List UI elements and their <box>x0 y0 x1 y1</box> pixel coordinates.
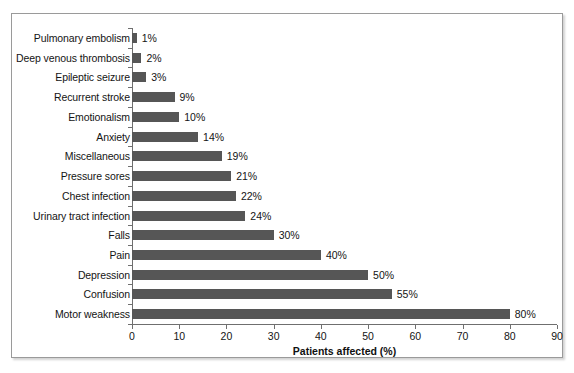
x-axis-tick-label: 30 <box>268 330 280 342</box>
y-axis-tick <box>128 127 132 128</box>
bar-value-label: 3% <box>151 71 166 83</box>
category-label: Urinary tract infection <box>33 210 130 222</box>
bar-row: Pain40% <box>12 245 564 265</box>
bar <box>132 230 274 240</box>
bar-value-label: 1% <box>142 32 157 44</box>
bar-row: Deep venous thrombosis2% <box>12 48 564 68</box>
x-axis-tick-label: 80 <box>504 330 516 342</box>
x-axis-tick <box>368 325 369 329</box>
bar-group: 50% <box>132 270 394 280</box>
bar-group: 10% <box>132 112 205 122</box>
x-axis-tick-label: 60 <box>409 330 421 342</box>
category-label: Motor weakness <box>55 308 130 320</box>
bar <box>132 72 146 82</box>
y-axis-tick <box>128 107 132 108</box>
bar-group: 2% <box>132 53 162 63</box>
x-axis-tick <box>415 325 416 329</box>
bar-row: Chest infection22% <box>12 186 564 206</box>
y-axis-tick <box>128 67 132 68</box>
bar <box>132 92 175 102</box>
bar-group: 19% <box>132 151 248 161</box>
category-label: Depression <box>78 269 130 281</box>
y-axis-tick <box>128 225 132 226</box>
bar <box>132 171 231 181</box>
bar <box>132 211 245 221</box>
bar-group: 3% <box>132 72 166 82</box>
category-label: Anxiety <box>96 131 130 143</box>
y-axis-tick <box>128 28 132 29</box>
bar-value-label: 50% <box>373 269 394 281</box>
bar-value-label: 80% <box>515 308 536 320</box>
bar-group: 14% <box>132 132 224 142</box>
bar-group: 22% <box>132 191 262 201</box>
bar-row: Motor weakness80% <box>12 304 564 324</box>
bar-value-label: 2% <box>146 52 161 64</box>
bar-value-label: 9% <box>180 91 195 103</box>
category-label: Pain <box>109 249 130 261</box>
y-axis-tick <box>128 284 132 285</box>
y-axis-tick <box>128 265 132 266</box>
bar-row: Falls30% <box>12 225 564 245</box>
bar-row: Miscellaneous19% <box>12 146 564 166</box>
x-axis-tick <box>510 325 511 329</box>
bar-value-label: 24% <box>250 210 271 222</box>
x-axis-tick-label: 70 <box>457 330 469 342</box>
y-axis-tick <box>128 48 132 49</box>
x-axis-tick-label: 90 <box>551 330 563 342</box>
bar-group: 21% <box>132 171 257 181</box>
bar-row: Pulmonary embolism1% <box>12 28 564 48</box>
bar-group: 9% <box>132 92 195 102</box>
bar-group: 80% <box>132 309 536 319</box>
y-axis-tick <box>128 304 132 305</box>
figure-frame: Pulmonary embolism1%Deep venous thrombos… <box>11 13 563 358</box>
y-axis-tick <box>128 166 132 167</box>
bar-value-label: 22% <box>241 190 262 202</box>
bar <box>132 132 198 142</box>
category-label: Pulmonary embolism <box>34 32 130 44</box>
bar-row: Anxiety14% <box>12 127 564 147</box>
bar-row: Recurrent stroke9% <box>12 87 564 107</box>
x-axis-tick-label: 40 <box>315 330 327 342</box>
category-label: Recurrent stroke <box>54 91 130 103</box>
bar-value-label: 21% <box>236 170 257 182</box>
x-axis-tick <box>321 325 322 329</box>
category-label: Falls <box>108 229 130 241</box>
y-axis-tick <box>128 87 132 88</box>
bar <box>132 250 321 260</box>
bar-value-label: 30% <box>279 229 300 241</box>
bar-value-label: 55% <box>397 288 418 300</box>
bar-value-label: 40% <box>326 249 347 261</box>
x-axis-tick <box>274 325 275 329</box>
y-axis-tick <box>128 206 132 207</box>
bar-group: 40% <box>132 250 347 260</box>
bar-row: Confusion55% <box>12 284 564 304</box>
category-label: Pressure sores <box>61 170 130 182</box>
x-axis-tick-label: 10 <box>173 330 185 342</box>
bar-row: Urinary tract infection24% <box>12 206 564 226</box>
y-axis-tick <box>128 245 132 246</box>
category-label: Confusion <box>84 288 130 300</box>
category-label: Chest infection <box>62 190 130 202</box>
category-label: Emotionalism <box>68 111 130 123</box>
x-axis-title: Patients affected (%) <box>132 345 557 357</box>
x-axis-tick <box>557 325 558 329</box>
chart-plot-area: Pulmonary embolism1%Deep venous thrombos… <box>12 14 564 359</box>
x-axis-tick <box>179 325 180 329</box>
bar <box>132 151 222 161</box>
category-label: Miscellaneous <box>65 150 130 162</box>
bar <box>132 289 392 299</box>
x-axis-tick <box>463 325 464 329</box>
x-axis-tick-label: 50 <box>362 330 374 342</box>
x-axis-tick-label: 20 <box>221 330 233 342</box>
bar-row: Pressure sores21% <box>12 166 564 186</box>
x-axis-tick <box>226 325 227 329</box>
bar <box>132 33 137 43</box>
bar-row: Depression50% <box>12 265 564 285</box>
bar-value-label: 14% <box>203 131 224 143</box>
bar-group: 24% <box>132 211 271 221</box>
bar-group: 1% <box>132 33 157 43</box>
bar-row: Epileptic seizure3% <box>12 67 564 87</box>
y-axis-tick <box>128 146 132 147</box>
bar <box>132 270 368 280</box>
bar-group: 30% <box>132 230 300 240</box>
